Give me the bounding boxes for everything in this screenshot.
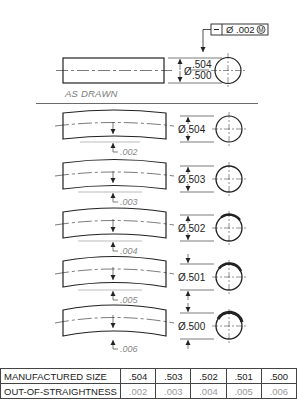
- svg-text:.002: .002: [120, 147, 138, 157]
- part-row-2: .003 Ø.503: [55, 160, 246, 208]
- table-cell: .502: [191, 369, 226, 384]
- lower-limit: .500: [192, 70, 212, 81]
- fcf-tolerance: Ø .002: [226, 24, 255, 35]
- part-row-3: .004 Ø.502: [55, 208, 246, 256]
- table-cell: .004: [191, 384, 226, 399]
- part-row-1: .002 Ø.504: [55, 110, 246, 157]
- size-straightness-table: MANUFACTURED SIZE .504 .503 .502 .501 .5…: [0, 368, 297, 399]
- part-row-4: .005 Ø.501: [55, 254, 246, 305]
- table-cell: .501: [226, 369, 261, 384]
- svg-text:.006: .006: [120, 344, 138, 354]
- table-row: MANUFACTURED SIZE .504 .503 .502 .501 .5…: [1, 369, 297, 384]
- table-cell: .005: [226, 384, 261, 399]
- svg-text:.004: .004: [120, 246, 138, 256]
- table-cell: .500: [261, 369, 296, 384]
- feature-control-frame: Ø .002 M: [203, 24, 268, 52]
- table-cell: .003: [156, 384, 191, 399]
- as-drawn-label: AS DRAWN: [64, 88, 118, 99]
- svg-text:Ø.500: Ø.500: [178, 321, 206, 332]
- table-row: OUT-OF-STRAIGHTNESS .002 .003 .004 .005 …: [1, 384, 297, 399]
- table-cell: .504: [120, 369, 155, 384]
- upper-limit: .504: [192, 59, 212, 70]
- svg-text:M: M: [258, 26, 263, 33]
- as-drawn-part: Ø .504 .500 AS DRAWN: [56, 53, 245, 99]
- svg-text:Ø.501: Ø.501: [178, 272, 206, 283]
- svg-text:.003: .003: [120, 197, 138, 207]
- straightness-diagram: Ø .002 M Ø .504 .500 AS DRAWN .002: [0, 0, 297, 366]
- table-cell: .503: [156, 369, 191, 384]
- svg-text:Ø.504: Ø.504: [178, 124, 206, 135]
- part-row-5: .006 Ø.500: [55, 303, 246, 354]
- svg-text:.005: .005: [120, 295, 139, 305]
- diameter-symbol: Ø: [184, 66, 192, 77]
- row-header-out-of-straightness: OUT-OF-STRAIGHTNESS: [1, 384, 121, 399]
- table-cell: .002: [120, 384, 155, 399]
- table-cell: .006: [261, 384, 296, 399]
- svg-text:Ø.502: Ø.502: [178, 223, 206, 234]
- svg-text:Ø.503: Ø.503: [178, 174, 206, 185]
- row-header-manufactured-size: MANUFACTURED SIZE: [1, 369, 121, 384]
